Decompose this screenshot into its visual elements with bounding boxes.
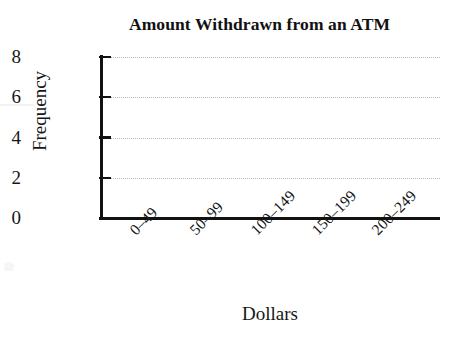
y-axis-tick-label: 2 xyxy=(0,168,21,187)
y-axis-tick xyxy=(99,96,111,98)
y-axis-tick xyxy=(99,177,111,179)
y-axis-tick-label: 6 xyxy=(0,87,21,106)
y-axis-gridline xyxy=(111,57,440,58)
y-axis-tick-label: 4 xyxy=(0,128,21,147)
y-axis-tick xyxy=(99,217,111,219)
y-axis-tick-label: 0 xyxy=(0,208,21,227)
y-axis-title: Frequency xyxy=(29,56,51,166)
y-axis-gridline xyxy=(111,178,440,179)
y-axis-gridline xyxy=(111,138,440,139)
y-axis-tick-label: 8 xyxy=(0,47,21,66)
chart-figure: Amount Withdrawn from an ATM Frequency 0… xyxy=(0,0,463,344)
chart-title: Amount Withdrawn from an ATM xyxy=(0,14,463,35)
plot-area xyxy=(100,57,440,218)
y-axis-tick xyxy=(99,56,111,58)
scan-artifact-secondary xyxy=(4,262,14,271)
y-axis-gridline xyxy=(111,97,440,98)
x-axis-title: Dollars xyxy=(100,303,440,325)
y-axis-tick xyxy=(99,136,111,138)
